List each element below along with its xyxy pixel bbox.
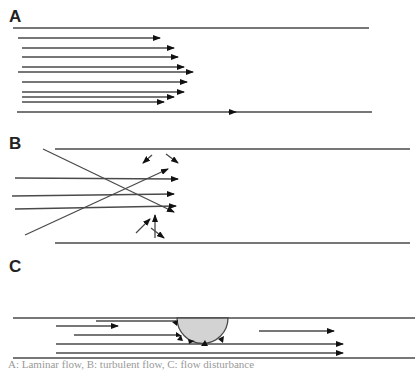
panel-b-turbulent: [12, 149, 410, 243]
panel-c-disturbance: [13, 318, 415, 358]
figure-caption: A: Laminar flow, B: turbulent flow, C: f…: [8, 358, 254, 370]
panel-a-laminar: [13, 28, 372, 112]
